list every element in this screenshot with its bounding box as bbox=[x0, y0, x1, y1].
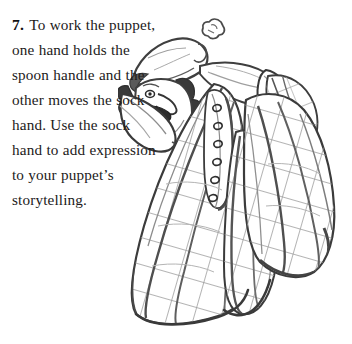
step-number: 7. bbox=[12, 16, 24, 33]
pom-pom bbox=[202, 19, 224, 39]
instruction-paragraph: 7.To work the puppet, one hand holds the… bbox=[12, 12, 164, 212]
instruction-text: To work the puppet, one hand holds the s… bbox=[12, 16, 156, 208]
instruction-block: 7.To work the puppet, one hand holds the… bbox=[12, 12, 164, 212]
page-root: 7.To work the puppet, one hand holds the… bbox=[0, 0, 352, 344]
